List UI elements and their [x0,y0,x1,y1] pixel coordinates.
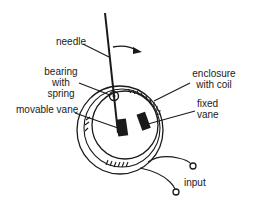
fixed-vane-leader [148,111,195,124]
enclosure-leader [154,83,190,101]
fixed-vane [137,112,151,131]
label-enclosure-with-coil: enclosure with coil [190,68,238,90]
needle [105,13,118,133]
label-enclosure-line2: with coil [190,79,238,90]
needle-leader [83,44,109,57]
label-fixed-vane: fixed vane [197,98,219,120]
input-terminal-1 [190,163,196,169]
label-needle: needle [56,36,86,47]
label-input: input [184,177,206,188]
meter-diagram: needle bearing with spring movable vane … [0,0,253,213]
label-enclosure-line1: enclosure [190,68,238,79]
label-bearing-with-spring: bearing with spring [44,66,78,99]
label-bearing-line2: with [44,77,78,88]
input-terminal-2 [173,189,179,195]
label-fixed-line1: fixed [197,98,219,109]
label-movable-vane: movable vane [16,104,78,115]
label-bearing-line1: bearing [44,66,78,77]
movable-vane-leader [75,113,118,128]
deflection-arrow-icon [113,46,142,54]
label-fixed-line2: vane [197,109,219,120]
label-bearing-line3: spring [44,88,78,99]
